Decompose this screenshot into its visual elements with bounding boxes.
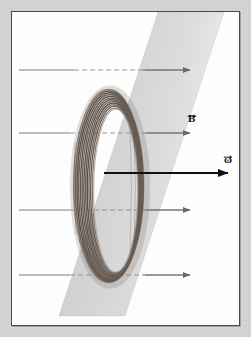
figure-frame: B ω [11,11,240,326]
diagram-canvas: B ω [12,12,239,325]
diagram-svg [12,12,239,325]
magnetic-field-vector-label: B [188,113,195,124]
b-symbol: B [188,113,195,124]
figure-root: B ω [0,0,251,337]
omega-symbol: ω [224,154,232,165]
angular-velocity-vector-label: ω [224,154,232,165]
